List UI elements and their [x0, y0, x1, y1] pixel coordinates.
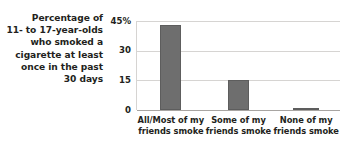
x-axis-tick-label-line: friends smoke: [205, 126, 273, 137]
y-axis-tick-label: 15: [101, 76, 131, 85]
x-axis-tick-label-line: Some of my: [205, 115, 273, 126]
x-axis-tick-label-line: friends smoke: [272, 126, 340, 137]
caption-line: 11- to 17-year-olds: [0, 24, 103, 36]
y-axis-tick-label: 45%: [101, 17, 131, 26]
caption-line: Percentage of: [0, 12, 103, 24]
bar: [228, 80, 249, 110]
x-axis-line: [137, 110, 340, 111]
caption-line: who smoked a: [0, 36, 103, 48]
plot-area: [137, 21, 340, 110]
caption-line: cigarette at least: [0, 49, 103, 61]
x-axis-tick-label-line: None of my: [272, 115, 340, 126]
caption-line: 30 days: [0, 73, 103, 85]
y-axis-tick-label: 30: [101, 46, 131, 55]
y-axis-line: [136, 21, 137, 110]
caption-line: once in the past: [0, 61, 103, 73]
y-axis-tick-label: 0: [101, 106, 131, 115]
gridline: [137, 21, 340, 22]
x-axis-tick-label-line: friends smoke: [137, 126, 205, 137]
x-axis-tick-label: None of myfriends smoke: [272, 115, 340, 136]
bar: [160, 25, 181, 110]
y-axis-caption: Percentage of 11- to 17-year-olds who sm…: [0, 12, 103, 85]
chart-figure: Percentage of 11- to 17-year-olds who sm…: [0, 0, 350, 148]
x-axis-tick-label: Some of myfriends smoke: [205, 115, 273, 136]
x-axis-tick-label: All/Most of myfriends smoke: [137, 115, 205, 136]
x-axis-tick-label-line: All/Most of my: [137, 115, 205, 126]
